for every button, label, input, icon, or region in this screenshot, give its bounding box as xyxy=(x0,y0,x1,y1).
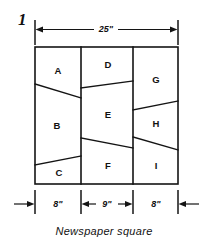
arrow-left-mid-icon xyxy=(82,201,90,207)
cut-line-e-f xyxy=(81,138,133,148)
bottom-dimension-label-3: 8" xyxy=(151,199,161,209)
cut-line-h-i xyxy=(133,137,178,150)
bottom-dimension-label-1: 8" xyxy=(53,199,63,209)
piece-label-g: G xyxy=(152,74,159,85)
newspaper-square-figure: 1 25" A B C D E F G H I xyxy=(0,0,204,250)
arrow-right-mid-icon xyxy=(125,201,133,207)
piece-label-d: D xyxy=(105,59,112,70)
figure-canvas: 1 25" A B C D E F G H I xyxy=(0,0,204,250)
piece-label-h: H xyxy=(153,118,160,129)
top-dimension-group: 25" xyxy=(35,20,178,45)
figure-caption: Newspaper square xyxy=(55,225,152,237)
piece-label-c: C xyxy=(56,167,63,178)
piece-label-i: I xyxy=(155,160,158,171)
cut-line-d-e xyxy=(81,81,133,88)
cut-line-b-c xyxy=(35,156,81,165)
piece-label-f: F xyxy=(105,160,111,171)
bottom-dimension-label-2: 9" xyxy=(102,199,112,209)
figure-number: 1 xyxy=(18,10,27,29)
arrow-right-outer-left-icon xyxy=(27,201,35,207)
top-dimension-label: 25" xyxy=(98,24,114,34)
cut-line-g-h xyxy=(133,101,178,110)
arrow-right-icon xyxy=(170,27,178,33)
bottom-dimension-group: 8" 9" 8" xyxy=(14,190,199,214)
piece-label-a: A xyxy=(55,65,62,76)
cut-line-a-b xyxy=(35,84,81,98)
piece-label-e: E xyxy=(105,109,111,120)
arrow-left-outer-right-icon xyxy=(179,201,187,207)
arrow-left-icon xyxy=(36,27,44,33)
piece-label-b: B xyxy=(54,120,61,131)
